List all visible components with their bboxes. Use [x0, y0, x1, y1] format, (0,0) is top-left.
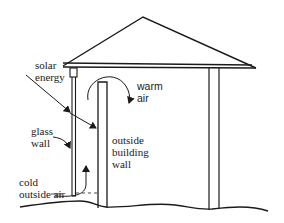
label-obw-line3: wall [112, 158, 149, 170]
label-glass-wall: glass wall [31, 125, 53, 149]
label-glass-line2: wall [31, 137, 53, 149]
diagram-canvas: solar energy warm air glass wall outside… [0, 0, 284, 223]
label-glass-line1: glass [31, 125, 53, 137]
label-solar-energy: solar energy [35, 59, 65, 83]
label-solar-line2: energy [35, 71, 65, 83]
roof-slopes [63, 17, 256, 68]
roof [63, 17, 256, 68]
label-obw-line1: outside [112, 134, 149, 146]
warm-air-arrow [88, 77, 130, 103]
right-wall [209, 68, 219, 210]
eave-bottom [63, 67, 256, 68]
glass-wall [70, 68, 77, 196]
label-warm-line2: air [137, 92, 163, 104]
label-outside-building-wall: outside building wall [112, 134, 149, 170]
label-obw-line2: building [112, 146, 149, 158]
glass-wall-pointer [53, 137, 70, 148]
ground-line [20, 201, 268, 211]
label-solar-line1: solar [35, 59, 65, 71]
label-warm-line1: warm [137, 80, 163, 92]
label-cold-outside-air: cold outside air [19, 176, 65, 200]
label-cold-line1: cold [19, 176, 65, 188]
label-warm-air: warm air [137, 80, 163, 104]
outside-building-wall [98, 82, 107, 208]
building-wall-pointer [70, 113, 96, 128]
glass-wall-cap [70, 68, 77, 77]
eave-top [63, 63, 252, 65]
label-cold-line2: outside air [19, 188, 65, 200]
